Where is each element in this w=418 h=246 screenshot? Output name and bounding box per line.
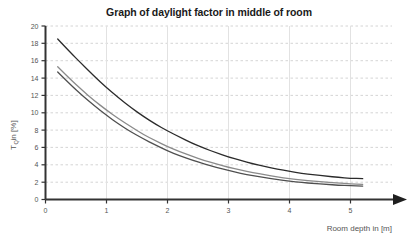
vertical-gridlines — [107, 26, 351, 200]
series-line — [58, 39, 363, 179]
y-axis-tick-labels: 02468101214161820 — [31, 23, 39, 204]
y-axis-title-tail: in [%] — [9, 120, 18, 140]
chart-container: Graph of daylight factor in middle of ro… — [0, 0, 418, 246]
x-axis: 012345 — [44, 194, 407, 214]
x-axis-title: Room depth in [m] — [327, 224, 392, 233]
horizontal-gridlines — [46, 26, 393, 182]
x-tick-label: 0 — [44, 207, 48, 214]
y-tick-label: 14 — [31, 75, 39, 82]
y-axis: 02468101214161820 — [31, 23, 46, 204]
y-tick-label: 8 — [35, 127, 39, 134]
y-axis-title-main: T — [9, 145, 18, 150]
y-tick-label: 2 — [35, 179, 39, 186]
y-tick-label: 10 — [31, 109, 39, 116]
y-tick-label: 6 — [35, 144, 39, 151]
x-tick-label: 1 — [105, 207, 109, 214]
y-axis-title: T Q in [%] — [9, 120, 19, 150]
x-tick-label: 5 — [349, 207, 353, 214]
y-tick-label: 12 — [31, 92, 39, 99]
x-axis-tick-labels: 012345 — [44, 207, 353, 214]
x-tick-label: 3 — [227, 207, 231, 214]
series-line — [58, 72, 363, 186]
x-tick-label: 2 — [166, 207, 170, 214]
y-tick-label: 0 — [35, 196, 39, 203]
y-tick-label: 20 — [31, 23, 39, 30]
y-tick-label: 16 — [31, 57, 39, 64]
chart-plot-svg: 02468101214161820 012345 Room depth in [… — [0, 0, 418, 246]
y-tick-label: 4 — [35, 161, 39, 168]
y-tick-label: 18 — [31, 40, 39, 47]
x-tick-label: 4 — [288, 207, 292, 214]
